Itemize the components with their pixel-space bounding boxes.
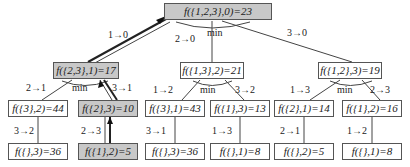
edge-label-n3-n31: 1→3 (290, 84, 310, 96)
edge-label-root-n2: 2→0 (175, 33, 195, 45)
node-n321: f({},1)=8 (342, 143, 402, 160)
edge-label-root-n1: 1→0 (108, 29, 128, 41)
edge-label-n12-n121: 2→3 (81, 125, 101, 137)
min-label-n1: min (72, 82, 88, 94)
node-n12: f({2},3)=10 (78, 100, 138, 117)
edge-label-n31-n311: 2→1 (280, 125, 300, 137)
node-n22: f({1},3)=13 (210, 100, 270, 117)
node-n311: f({},2)=5 (274, 143, 334, 160)
edge-label-n1-n11: 2→1 (26, 82, 46, 94)
edge-label-n2-n21: 1→2 (153, 84, 173, 96)
min-label-root: min (207, 27, 223, 39)
edge-label-n3-n32: 2→3 (370, 84, 390, 96)
node-n3: f({1,2},3)=19 (318, 62, 382, 79)
edge-label-root-n3: 3→0 (287, 27, 307, 39)
node-n21: f({3},1)=43 (145, 100, 205, 117)
edge-label-n1-n12: 3→1 (112, 82, 132, 94)
min-label-n3: min (337, 84, 353, 96)
node-n32: f({1},2)=16 (342, 100, 402, 117)
min-label-n2: min (200, 84, 216, 96)
node-n111: f({},3)=36 (8, 143, 68, 160)
edge-label-n11-n111: 3→2 (14, 125, 34, 137)
edge-label-n22-n221: 1→3 (212, 125, 232, 137)
node-n211: f({},3)=36 (145, 143, 205, 160)
node-n221: f({},1)=8 (210, 143, 270, 160)
arrow-head-icon (107, 117, 113, 124)
node-n2: f({1,3},2)=21 (180, 62, 244, 79)
node-n11: f({3},2)=44 (8, 100, 68, 117)
node-n31: f({2},1)=14 (274, 100, 334, 117)
node-root: f({1,2,3},0)=23 (164, 3, 272, 20)
edge-label-n2-n22: 3→2 (235, 84, 255, 96)
node-n1: f({2,3},1)=17 (53, 62, 119, 79)
node-n121: f({1},2)=5 (78, 143, 138, 160)
edge-label-n21-n211: 3→1 (146, 125, 166, 137)
edge-label-n32-n321: 1→2 (347, 125, 367, 137)
